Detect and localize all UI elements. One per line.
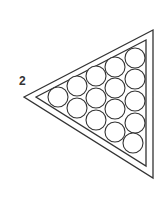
ball bbox=[105, 78, 125, 98]
ball bbox=[67, 76, 87, 96]
ball bbox=[105, 99, 125, 119]
ball bbox=[105, 57, 125, 77]
ball bbox=[48, 87, 68, 107]
ball bbox=[123, 133, 143, 153]
ball bbox=[125, 48, 145, 68]
balls bbox=[48, 48, 145, 153]
triangle-rack-diagram bbox=[0, 0, 160, 199]
ball bbox=[125, 113, 145, 133]
ball bbox=[105, 122, 125, 142]
ball bbox=[125, 69, 145, 89]
ball bbox=[86, 110, 106, 130]
ball bbox=[67, 98, 87, 118]
ball bbox=[125, 91, 145, 111]
ball bbox=[86, 88, 106, 108]
ball bbox=[86, 66, 106, 86]
